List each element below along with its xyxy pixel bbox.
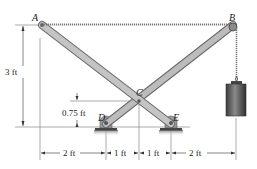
point-label-c: C [136,87,143,98]
point-label-e: E [172,112,179,123]
dimension-horizontal: 2 ft 1 ft 1 ft 2 ft [41,148,235,158]
dimension-label-075ft: 0.75 ft [62,108,86,118]
pulley-b [229,23,237,31]
pin-a [40,23,44,27]
point-label-a: A [31,12,39,23]
weight [226,81,246,116]
dimension-075ft: 0.75 ft [62,93,86,127]
dimension-label-span-3: 1 ft [147,148,160,158]
pin-c [137,99,141,103]
dimension-label-span-4: 2 ft [189,148,202,158]
dimension-label-3ft: 3 ft [5,67,18,77]
dimension-label-span-1: 2 ft [63,148,76,158]
dimension-3ft: 3 ft [5,26,25,126]
dimension-label-span-2: 1 ft [114,148,127,158]
bar-bd [106,25,233,124]
point-label-d: D [97,112,106,123]
point-label-b: B [229,12,235,23]
frame-diagram: 3 ft 0.75 ft 2 ft 1 ft 1 ft 2 ft [0,0,257,169]
